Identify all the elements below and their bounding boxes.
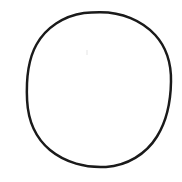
image-canvas (0, 0, 182, 182)
scan-speck-artifact (86, 50, 88, 55)
circle-outline-path (27, 12, 171, 167)
circle-drawing (0, 0, 182, 182)
